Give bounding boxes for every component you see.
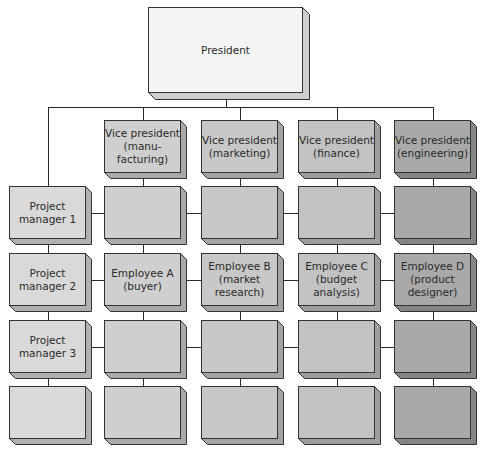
cell-finance-row1-face — [298, 186, 375, 239]
cell-marketing-row4 — [201, 386, 284, 445]
cell-marketing-row2-face: Employee B (market research) — [201, 253, 278, 306]
president-box: President — [148, 7, 310, 100]
cell-manufacturing-row1-face — [104, 186, 181, 239]
cell-engineering-row4-face — [394, 386, 471, 439]
president-box-label: President — [201, 44, 250, 57]
vp-manufacturing-box-face: Vice president (manu- facturing) — [104, 120, 181, 173]
cell-pm-row2-face: Project manager 2 — [9, 253, 86, 306]
cell-marketing-row2: Employee B (market research) — [201, 253, 284, 312]
cell-finance-row3-face — [298, 320, 375, 373]
cell-pm-row4-face — [9, 386, 86, 439]
vp-engineering-box-face: Vice president (engineering) — [394, 120, 471, 173]
vp-manufacturing-box-label: Vice president (manu- facturing) — [105, 127, 180, 166]
cell-engineering-row2-label: Employee D (product designer) — [401, 260, 464, 299]
cell-pm-row4 — [9, 386, 92, 445]
cell-pm-row1-label: Project manager 1 — [19, 200, 76, 226]
cell-engineering-row2: Employee D (product designer) — [394, 253, 477, 312]
column-drop-line-4 — [433, 107, 434, 120]
cell-engineering-row3-face — [394, 320, 471, 373]
vp-finance-box: Vice president (finance) — [298, 120, 381, 179]
column-drop-line-1 — [143, 107, 144, 120]
top-horizontal-bar — [48, 107, 434, 108]
cell-marketing-row4-face — [201, 386, 278, 439]
cell-pm-row3-face: Project manager 3 — [9, 320, 86, 373]
cell-engineering-row3 — [394, 320, 477, 379]
cell-manufacturing-row3-face — [104, 320, 181, 373]
cell-marketing-row1 — [201, 186, 284, 245]
org-chart: PresidentVice president (manu- facturing… — [0, 0, 485, 452]
cell-manufacturing-row4-face — [104, 386, 181, 439]
cell-marketing-row1-face — [201, 186, 278, 239]
vp-engineering-box: Vice president (engineering) — [394, 120, 477, 179]
column-drop-line-3 — [337, 107, 338, 120]
cell-manufacturing-row3 — [104, 320, 187, 379]
cell-finance-row4-face — [298, 386, 375, 439]
cell-engineering-row1 — [394, 186, 477, 245]
cell-engineering-row1-face — [394, 186, 471, 239]
vp-finance-box-face: Vice president (finance) — [298, 120, 375, 173]
vp-engineering-box-label: Vice president (engineering) — [395, 134, 470, 160]
president-box-face: President — [148, 7, 303, 93]
cell-engineering-row4 — [394, 386, 477, 445]
vp-marketing-box-face: Vice president (marketing) — [201, 120, 278, 173]
cell-manufacturing-row4 — [104, 386, 187, 445]
cell-marketing-row3 — [201, 320, 284, 379]
cell-pm-row1: Project manager 1 — [9, 186, 92, 245]
cell-marketing-row3-face — [201, 320, 278, 373]
vp-marketing-box: Vice president (marketing) — [201, 120, 284, 179]
cell-marketing-row2-label: Employee B (market research) — [208, 260, 271, 299]
vp-marketing-box-label: Vice president (marketing) — [202, 134, 277, 160]
vp-manufacturing-box: Vice president (manu- facturing) — [104, 120, 187, 179]
column-drop-line-0 — [48, 107, 49, 186]
cell-finance-row2: Employee C (budget analysis) — [298, 253, 381, 312]
cell-manufacturing-row2-label: Employee A (buyer) — [111, 267, 174, 293]
cell-pm-row3: Project manager 3 — [9, 320, 92, 379]
cell-finance-row2-label: Employee C (budget analysis) — [305, 260, 368, 299]
vp-finance-box-label: Vice president (finance) — [299, 134, 374, 160]
cell-pm-row2: Project manager 2 — [9, 253, 92, 312]
cell-manufacturing-row1 — [104, 186, 187, 245]
cell-finance-row3 — [298, 320, 381, 379]
cell-pm-row2-label: Project manager 2 — [19, 267, 76, 293]
cell-pm-row3-label: Project manager 3 — [19, 334, 76, 360]
cell-engineering-row2-face: Employee D (product designer) — [394, 253, 471, 306]
cell-finance-row1 — [298, 186, 381, 245]
cell-finance-row4 — [298, 386, 381, 445]
cell-pm-row1-face: Project manager 1 — [9, 186, 86, 239]
cell-finance-row2-face: Employee C (budget analysis) — [298, 253, 375, 306]
cell-manufacturing-row2: Employee A (buyer) — [104, 253, 187, 312]
column-drop-line-2 — [240, 107, 241, 120]
cell-manufacturing-row2-face: Employee A (buyer) — [104, 253, 181, 306]
